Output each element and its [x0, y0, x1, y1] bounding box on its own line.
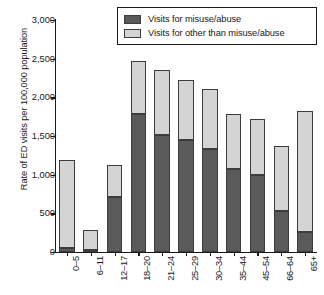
bar-segment-other	[226, 114, 242, 169]
x-axis-label: 45–54	[261, 256, 271, 281]
bar	[154, 70, 170, 252]
x-axis-label: 21–24	[166, 256, 176, 281]
x-axis-label: 65+	[309, 256, 319, 271]
x-axis-label: 6–11	[95, 256, 105, 275]
y-tick-label: 0	[50, 247, 55, 257]
bar	[297, 111, 313, 252]
x-axis-label: 30–34	[214, 256, 224, 281]
x-tick-mark	[305, 252, 306, 256]
bar-segment-other	[131, 61, 147, 114]
bar-segment-misuse	[250, 175, 266, 252]
bar-segment-misuse	[107, 197, 123, 252]
x-tick-mark	[210, 252, 211, 256]
bar-segment-misuse	[297, 232, 313, 252]
bar-segment-misuse	[202, 149, 218, 252]
bar-segment-other	[250, 119, 266, 175]
y-tick-label: 1,000	[32, 170, 55, 180]
stacked-bar-chart: Rate of ED visits per 100,000 population…	[0, 0, 324, 295]
x-tick-mark	[186, 252, 187, 256]
bar-segment-other	[83, 230, 99, 250]
x-tick-mark	[234, 252, 235, 256]
bar	[226, 114, 242, 252]
y-tick-label: 2,500	[32, 54, 55, 64]
bar-segment-other	[274, 146, 290, 211]
bar-segment-other	[297, 111, 313, 232]
bar-segment-misuse	[274, 211, 290, 252]
x-axis-label: 18–20	[142, 256, 152, 281]
x-axis-label: 12–17	[119, 256, 129, 281]
legend-item-misuse: Visits for misuse/abuse	[124, 12, 311, 26]
bar	[178, 80, 194, 252]
bar-segment-misuse	[226, 169, 242, 252]
bar	[250, 119, 266, 252]
y-tick-label: 500	[39, 208, 55, 218]
bar	[107, 165, 123, 252]
bar-segment-misuse	[131, 114, 147, 252]
bar-segment-other	[107, 165, 123, 196]
bar-segment-other	[154, 70, 170, 135]
x-axis-label: 35–44	[238, 256, 248, 281]
bar-segment-other	[59, 160, 75, 248]
legend-swatch-misuse	[124, 15, 141, 24]
x-tick-mark	[115, 252, 116, 256]
x-tick-mark	[91, 252, 92, 256]
bar-segment-misuse	[154, 135, 170, 252]
legend-label-other: Visits for other than misuse/abuse	[148, 28, 284, 38]
y-tick-label: 1,500	[32, 131, 55, 141]
chart-legend: Visits for misuse/abuse Visits for other…	[117, 7, 317, 45]
x-tick-mark	[281, 252, 282, 256]
plot-area: 05001,0001,5002,0002,5003,000	[55, 20, 317, 252]
x-tick-mark	[257, 252, 258, 256]
legend-label-misuse: Visits for misuse/abuse	[148, 14, 241, 24]
x-tick-mark	[138, 252, 139, 256]
x-axis-label: 25–29	[190, 256, 200, 281]
bar	[274, 146, 290, 252]
y-axis-title: Rate of ED visits per 100,000 population	[19, 9, 29, 209]
bar	[83, 230, 99, 252]
x-tick-mark	[162, 252, 163, 256]
legend-item-other: Visits for other than misuse/abuse	[124, 26, 311, 40]
x-tick-mark	[67, 252, 68, 256]
x-axis-label: 0–5	[71, 256, 81, 271]
bar	[131, 61, 147, 252]
y-tick-label: 3,000	[32, 15, 55, 25]
x-axis-label: 66–64	[285, 256, 295, 281]
bar-segment-misuse	[178, 140, 194, 252]
bar-segment-other	[178, 80, 194, 140]
bar-segment-other	[202, 89, 218, 149]
y-tick-label: 2,000	[32, 92, 55, 102]
bar	[59, 160, 75, 252]
bar	[202, 89, 218, 252]
legend-swatch-other	[124, 29, 141, 38]
